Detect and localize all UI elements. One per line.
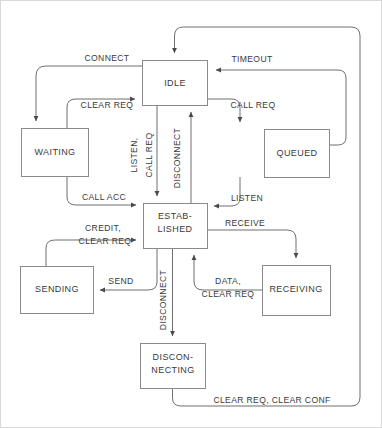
state-queued-label: QUEUED: [277, 148, 318, 158]
edge-label-call-acc: CALL ACC: [82, 192, 126, 202]
state-sending-label: SENDING: [35, 284, 79, 294]
edge-label-listen-vertical: LISTEN,: [129, 138, 139, 173]
state-queued[interactable]: QUEUED: [265, 130, 330, 178]
state-idle[interactable]: IDLE: [143, 61, 208, 106]
edge-label-clear-req-sending: CLEAR REQ: [79, 236, 132, 246]
state-established-label-line1: ESTAB-: [158, 211, 192, 221]
edge-label-clear-req-waiting: CLEAR REQ: [81, 100, 134, 110]
edge-label-listen-queued: LISTEN: [231, 193, 263, 203]
state-disconnecting[interactable]: DISCON- NECTING: [141, 344, 206, 389]
state-established-label-line2: LISHED: [158, 224, 193, 234]
edge-label-clear-req-receiving: CLEAR REQ: [202, 289, 255, 299]
edge-label-credit: CREDIT,: [85, 223, 121, 233]
edge-label-data: DATA,: [215, 276, 241, 286]
state-waiting-label: WAITING: [35, 147, 76, 157]
state-disconnecting-label-line2: NECTING: [151, 365, 194, 375]
edge-label-receive: RECEIVE: [225, 218, 265, 228]
edge-connect: [36, 66, 142, 121]
edge-label-timeout: TIMEOUT: [231, 54, 273, 64]
state-idle-label: IDLE: [164, 78, 186, 88]
edge-label-disconnect-down: DISCONNECT: [158, 269, 168, 330]
state-diagram: IDLE WAITING QUEUED ESTAB- LISHED SENDIN…: [0, 0, 382, 428]
edge-label-clear-req-clear-conf: CLEAR REQ, CLEAR CONF: [213, 395, 330, 405]
state-receiving[interactable]: RECEIVING: [263, 266, 331, 316]
edge-label-call-req: CALL REQ: [231, 100, 276, 110]
edge-label-send: SEND: [108, 276, 133, 286]
state-receiving-label: RECEIVING: [269, 284, 322, 294]
edge-label-call-req-vertical: CALL REQ: [144, 133, 154, 178]
state-sending[interactable]: SENDING: [21, 267, 94, 314]
edge-label-disconnect-vertical: DISCONNECT: [172, 127, 182, 188]
edge-label-connect: CONNECT: [85, 53, 130, 63]
state-diagram-canvas: IDLE WAITING QUEUED ESTAB- LISHED SENDIN…: [0, 0, 382, 428]
state-waiting[interactable]: WAITING: [22, 129, 89, 177]
state-disconnecting-label-line1: DISCON-: [153, 352, 194, 362]
edge-receive: [207, 230, 296, 258]
state-established[interactable]: ESTAB- LISHED: [144, 204, 208, 249]
